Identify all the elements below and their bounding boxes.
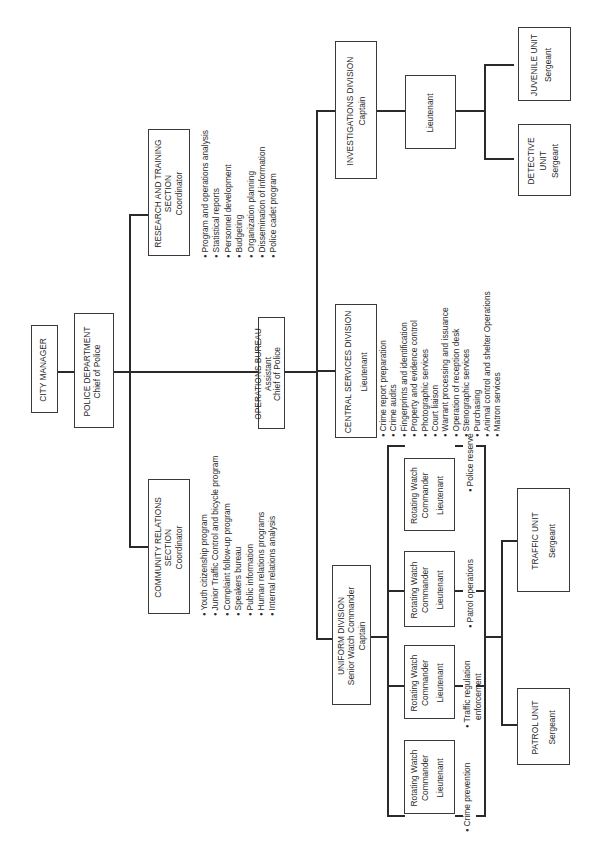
watch-duty-3: Patrol operations xyxy=(465,559,476,628)
duty-item: Junior Traffic Control and bicycle progr… xyxy=(210,456,221,616)
duty-item: Human relations programs xyxy=(256,456,267,616)
detective-unit-subtitle: Sergeant xyxy=(549,130,561,192)
watch-commander-title: Rotating Watch xyxy=(409,557,420,623)
connector-uniform-to-watch-spine xyxy=(370,636,388,638)
duty-item: Police cadet program xyxy=(268,130,279,258)
connector-city-to-police xyxy=(57,371,74,373)
city-manager-box[interactable]: CITY MANAGER xyxy=(31,325,58,413)
central-services-title: CENTRAL SERVICES DIVISION xyxy=(342,310,355,434)
duty-link-3b xyxy=(476,590,485,592)
watch-duty-2: Traffic regulation enforcement xyxy=(462,660,484,728)
watch-commander-rank: Lieutenant xyxy=(435,651,446,715)
city-manager-title: CITY MANAGER xyxy=(38,331,48,409)
juvenile-unit-box[interactable]: JUVENILE UNIT Sergeant xyxy=(518,27,571,101)
duty-item: Organization planning xyxy=(246,130,257,258)
division-spine xyxy=(316,110,318,640)
connector-to-watch-4 xyxy=(387,445,405,447)
police-department-box[interactable]: POLICE DEPARTMENT Chief of Police xyxy=(74,313,114,428)
detective-unit-title: DETECTIVE xyxy=(525,130,537,192)
connector-to-detective xyxy=(484,158,514,160)
traffic-unit-box[interactable]: TRAFFIC UNIT Sergeant xyxy=(517,488,570,592)
connector-lieutenant-to-units xyxy=(454,110,484,112)
operations-bureau-subtitle-2: Chief of Police xyxy=(273,323,283,425)
traffic-unit-title: TRAFFIC UNIT xyxy=(528,494,542,588)
uniform-division-box[interactable]: UNIFORM DIVISION Senior Watch Commander … xyxy=(332,565,371,705)
research-training-box[interactable]: RESEARCH AND TRAINING SECTION Coordinato… xyxy=(148,129,190,256)
duty-item: Personnel development xyxy=(223,130,234,258)
duty-item: Internal relations analysis xyxy=(267,456,278,616)
watch-commander-1-box[interactable]: Rotating Watch Commander Lieutenant xyxy=(404,740,455,814)
community-relations-title-2: SECTION xyxy=(163,485,173,610)
units-spine xyxy=(484,64,486,160)
uniform-division-title: UNIFORM DIVISION xyxy=(336,571,346,701)
connector-spine-to-research xyxy=(129,214,149,216)
watch-commander-4-box[interactable]: Rotating Watch Commander Lieutenant xyxy=(404,458,455,531)
investigations-division-box[interactable]: INVESTIGATIONS DIVISION Captain xyxy=(335,41,377,179)
duty-item: Complaint follow-up program xyxy=(222,456,233,616)
connector-to-investigations xyxy=(316,110,336,112)
connector-to-central-services xyxy=(316,370,336,372)
duty-item: Program and operations analysis xyxy=(200,130,211,258)
research-training-title: RESEARCH AND TRAINING xyxy=(153,135,163,252)
watch-commander-title-2: Commander xyxy=(420,746,431,810)
central-services-subtitle: Lieutenant xyxy=(358,310,371,434)
duty-item: Budgeting xyxy=(234,130,245,258)
duty-item: Speakers bureau xyxy=(233,456,244,616)
duty-link-1b xyxy=(476,815,485,817)
watch-commander-rank: Lieutenant xyxy=(435,557,446,623)
patrol-unit-box[interactable]: PATROL UNIT Sergeant xyxy=(517,688,570,765)
watch-commander-title: Rotating Watch xyxy=(409,464,420,527)
watch-commander-2-box[interactable]: Rotating Watch Commander Lieutenant xyxy=(404,645,455,719)
duty-item: Dissemination of information xyxy=(257,130,268,258)
connector-to-traffic xyxy=(501,540,517,542)
uniform-division-subtitle-2: Captain xyxy=(357,571,367,701)
connector-to-watch-1 xyxy=(387,815,405,817)
duty-spine xyxy=(484,445,486,817)
connector-to-juvenile xyxy=(484,64,514,66)
detective-unit-box[interactable]: DETECTIVE UNIT Sergeant xyxy=(518,124,571,196)
uniform-division-subtitle: Senior Watch Commander xyxy=(346,571,356,701)
police-department-title: POLICE DEPARTMENT xyxy=(82,319,92,424)
duty-item: Public information xyxy=(245,456,256,616)
duty-link-3a xyxy=(455,590,463,592)
connector-duty-to-units-spine xyxy=(484,636,502,638)
traffic-unit-subtitle: Sergeant xyxy=(545,494,559,588)
duty-item: Matron services xyxy=(493,291,503,437)
community-relations-title: COMMUNITY RELATIONS xyxy=(153,485,163,610)
operations-bureau-box[interactable]: OPERATIONS BUREAU Assistant Chief of Pol… xyxy=(258,317,285,429)
connector-investigations-to-lieutenant xyxy=(376,110,406,112)
community-relations-subtitle: Coordinator xyxy=(174,485,184,610)
research-training-duties: Program and operations analysis Statisti… xyxy=(200,130,280,258)
watch-commander-title-2: Commander xyxy=(420,464,431,527)
patrol-traffic-spine xyxy=(501,540,503,726)
police-department-subtitle: Chief of Police xyxy=(92,319,102,424)
patrol-unit-subtitle: Sergeant xyxy=(545,694,559,761)
duty-link-4b xyxy=(476,445,485,447)
detective-unit-title-2: UNIT xyxy=(537,130,549,192)
juvenile-unit-subtitle: Sergeant xyxy=(541,33,555,97)
community-relations-duties: Youth citizenship program Junior Traffic… xyxy=(199,456,279,616)
investigations-lieutenant-title: Lieutenant xyxy=(425,81,435,145)
connector-spine-to-operations xyxy=(129,371,259,373)
central-services-box[interactable]: CENTRAL SERVICES DIVISION Lieutenant xyxy=(335,304,377,438)
duty-item: Statistical reports xyxy=(211,130,222,258)
connector-to-watch-2 xyxy=(387,685,405,687)
juvenile-unit-title: JUVENILE UNIT xyxy=(527,33,541,97)
investigations-division-title: INVESTIGATIONS DIVISION xyxy=(344,47,356,175)
watch-commander-title-2: Commander xyxy=(420,557,431,623)
connector-to-watch-3 xyxy=(387,590,405,592)
connector-spine-to-community xyxy=(129,546,149,548)
connector-to-patrol xyxy=(501,724,517,726)
research-training-title-2: SECTION xyxy=(163,135,173,252)
watch-commander-rank: Lieutenant xyxy=(435,464,446,527)
patrol-unit-title: PATROL UNIT xyxy=(528,694,542,761)
central-services-duties: Crime report preparation Crime audits Fi… xyxy=(379,291,504,437)
investigations-division-subtitle: Captain xyxy=(356,47,368,175)
watch-duty-1: Crime prevention xyxy=(462,763,473,832)
investigations-lieutenant-box[interactable]: Lieutenant xyxy=(405,75,456,149)
community-relations-box[interactable]: COMMUNITY RELATIONS SECTION Coordinator xyxy=(148,479,190,614)
watch-commander-rank: Lieutenant xyxy=(435,746,446,810)
connector-operations-to-division-spine xyxy=(284,371,318,373)
watch-commander-3-box[interactable]: Rotating Watch Commander Lieutenant xyxy=(404,551,455,627)
watch-commander-title: Rotating Watch xyxy=(409,746,420,810)
